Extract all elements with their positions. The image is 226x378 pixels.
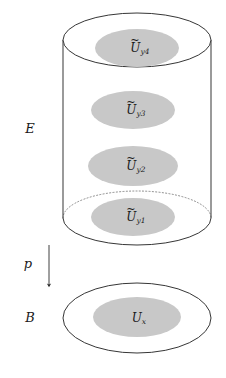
u-x-base: U — [132, 311, 142, 325]
tilde-accent-u-y3: ~ — [126, 97, 135, 108]
total-space-label: E — [25, 122, 35, 135]
u-y3-subscript: y3 — [136, 109, 145, 118]
u-y1-subscript: y1 — [136, 216, 145, 225]
u-y4-subscript: y4 — [140, 47, 149, 56]
u-y2-subscript: y2 — [136, 165, 145, 174]
u-y3-base-wrap: ~ U — [126, 104, 136, 116]
tilde-accent-u-y1: ~ — [126, 204, 135, 215]
fiber-label-u-y4: ~ U y4 — [130, 42, 149, 54]
fiber-label-u-y1: ~ U y1 — [126, 211, 145, 223]
fiber-bundle-figure: E p B ~ U y4 ~ U y3 ~ U y2 ~ U y1 Ux — [0, 0, 226, 378]
tilde-accent-u-y4: ~ — [130, 35, 139, 46]
fiber-label-u-y3: ~ U y3 — [126, 104, 145, 116]
u-y1-base-wrap: ~ U — [126, 211, 136, 223]
projection-map-label: p — [24, 257, 32, 270]
fiber-label-u-y2: ~ U y2 — [126, 160, 145, 172]
base-patch-label-u-x: Ux — [132, 312, 147, 324]
u-y2-base-wrap: ~ U — [126, 160, 136, 172]
u-y4-base-wrap: ~ U — [130, 42, 140, 54]
tilde-accent-u-y2: ~ — [126, 153, 135, 164]
u-x-subscript: x — [142, 317, 146, 326]
base-space-label: B — [25, 311, 35, 324]
